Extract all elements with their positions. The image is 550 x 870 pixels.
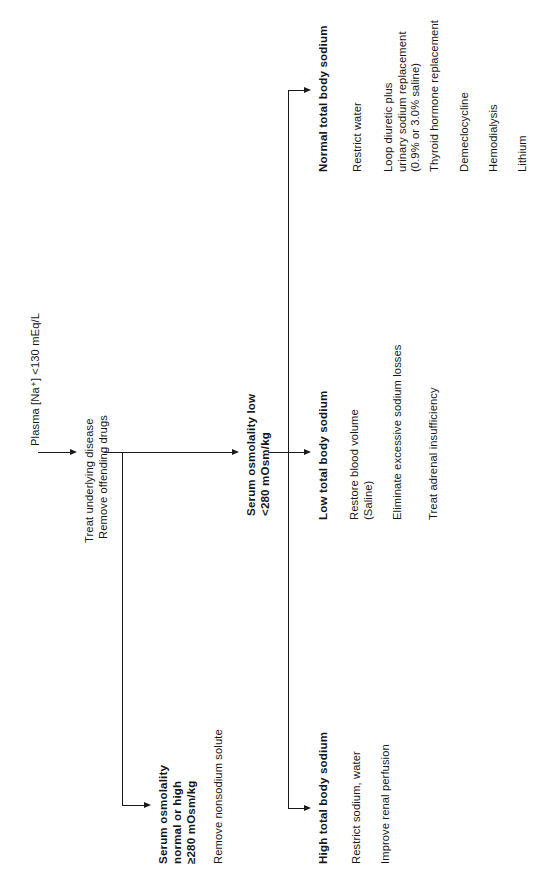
column-heading-high-total-body-sodium: High total body sodium: [316, 732, 330, 864]
column-item-normal-1: Loop diuretic plus urinary sodium replac…: [382, 31, 423, 172]
column-item-normal-4: Hemodialysis: [487, 104, 501, 172]
column-item-low-2: Treat adrenal insufficiency: [427, 387, 441, 520]
connector-to-normal-high-osm: [122, 805, 146, 806]
column-item-normal-2: Thyroid hormone replacement: [428, 20, 442, 172]
connector-root-to-treatment: [38, 452, 72, 453]
column-item-normal-3: Demeclocycline: [458, 92, 472, 172]
column-item-normal-0: Restrict water: [351, 102, 365, 172]
arrowhead-high-tbs: [304, 805, 311, 811]
column-item-low-0: Restore blood volume (Saline): [348, 409, 375, 520]
column-item-normal-5: Lithium: [516, 135, 530, 172]
flowchart-canvas: Plasma [Na⁺] <130 mEq/L Treat underlying…: [0, 0, 550, 870]
node-serum-osmolality-normal-high: Serum osmolality normal or high ≥280 mOs…: [156, 765, 198, 864]
node-serum-osmolality-low: Serum osmolality low <280 mOsm/kg: [244, 394, 272, 516]
column-item-low-1: Eliminate excessive sodium losses: [391, 344, 405, 520]
connector-three-way-split: [288, 90, 289, 808]
column-heading-low-total-body-sodium: Low total body sodium: [316, 391, 330, 520]
arrowhead-low-tbs: [304, 449, 311, 455]
arrowhead-root-to-treatment: [70, 449, 77, 455]
arrowhead-normal-tbs: [304, 87, 311, 93]
connector-trunk-split: [122, 452, 123, 805]
node-root-label: Plasma [Na⁺] <130 mEq/L: [29, 313, 43, 446]
arrowhead-normal-high-osm: [144, 802, 151, 808]
column-heading-normal-total-body-sodium: Normal total body sodium: [316, 25, 330, 172]
column-item-high-0: Restrict sodium, water: [350, 751, 364, 864]
node-initial-treatment-line1: Treat underlying disease: [83, 419, 97, 544]
column-item-high-1: Improve renal perfusion: [379, 744, 393, 864]
node-initial-treatment-line2: Remove offending drugs: [97, 415, 111, 539]
arrowhead-low-osm: [232, 449, 239, 455]
node-remove-nonsodium-solute: Remove nonsodium solute: [212, 729, 226, 864]
connector-to-low-osm: [122, 452, 234, 453]
